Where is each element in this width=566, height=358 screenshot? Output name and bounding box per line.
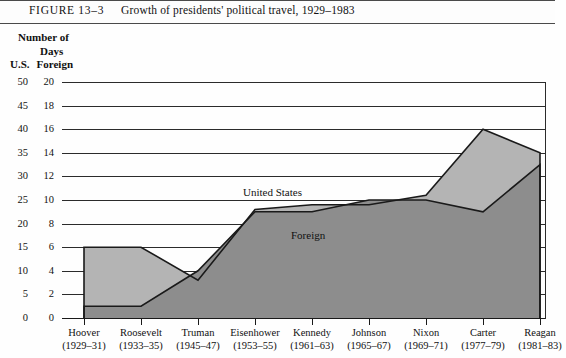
series-label-foreign: Foreign [291,229,325,241]
y-tick-row: 3012 [0,170,58,182]
x-axis-tick [483,318,484,325]
y-tick-foreign: 2 [36,288,54,300]
x-axis-tick [426,318,427,325]
x-axis-line [62,318,546,319]
y-tick-foreign: 4 [36,265,54,277]
x-axis-label-name: Reagan [490,326,566,339]
y-tick-us: 30 [18,170,29,182]
y-tick-row: 5020 [0,76,58,88]
y-tick-foreign: 12 [36,170,54,182]
y-tick-foreign: 14 [36,147,54,159]
y-tick-row: 00 [0,312,58,324]
y-tick-foreign: 16 [36,123,54,135]
x-axis-tick [255,318,256,325]
y-tick-foreign: 8 [36,218,54,230]
y-tick-row: 208 [0,218,58,230]
y-tick-foreign: 20 [36,76,54,88]
y-tick-row: 4518 [0,100,58,112]
x-axis-tick [84,318,85,325]
x-axis-label-years: (1981–83) [490,339,566,352]
y-tick-foreign: 18 [36,100,54,112]
y-tick-us: 0 [23,312,28,324]
x-axis-tick [141,318,142,325]
x-axis-tick [312,318,313,325]
y-tick-us: 40 [18,123,29,135]
y-tick-us: 5 [23,288,28,300]
y-tick-row: 156 [0,241,58,253]
y-tick-us: 25 [18,194,29,206]
x-axis-tick [198,318,199,325]
x-axis-label-reagan: Reagan(1981–83) [490,326,566,352]
y-tick-us: 15 [18,241,29,253]
x-axis-tick [369,318,370,325]
series-label-united-states: United States [243,186,302,198]
y-tick-us: 35 [18,147,29,159]
y-tick-us: 20 [18,218,29,230]
y-tick-foreign: 0 [36,312,54,324]
y-tick-row: 3514 [0,147,58,159]
y-axis-right-line [545,82,546,319]
y-tick-foreign: 10 [36,194,54,206]
y-tick-us: 45 [18,100,29,112]
y-tick-row: 52 [0,288,58,300]
series-svg [62,82,546,318]
y-tick-row: 4016 [0,123,58,135]
x-axis-tick [540,318,541,325]
plot-area [62,82,546,318]
y-tick-us: 10 [18,265,29,277]
y-tick-row: 2510 [0,194,58,206]
y-tick-row: 104 [0,265,58,277]
y-tick-us: 50 [18,76,29,88]
y-tick-foreign: 6 [36,241,54,253]
